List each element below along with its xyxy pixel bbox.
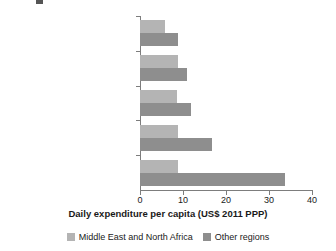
y-axis-tick	[136, 86, 140, 87]
x-axis-tick-label: 30	[264, 195, 274, 206]
y-axis-tick	[136, 51, 140, 52]
chart-legend: Middle East and North AfricaOther region…	[0, 232, 336, 242]
bar	[140, 55, 178, 68]
legend-label: Other regions	[215, 232, 270, 242]
bar	[140, 138, 212, 151]
legend-item[interactable]: Middle East and North Africa	[67, 232, 193, 242]
bar	[140, 103, 191, 116]
x-axis-tick-label: 20	[221, 195, 231, 206]
legend-swatch-icon	[203, 233, 211, 241]
legend-label: Middle East and North Africa	[79, 232, 193, 242]
x-axis-tick-label: 0	[137, 195, 142, 206]
legend-item[interactable]: Other regions	[203, 232, 270, 242]
bar	[140, 160, 178, 173]
x-axis-title: Daily expenditure per capita (US$ 2011 P…	[0, 208, 336, 219]
y-axis-tick	[136, 16, 140, 17]
legend-swatch-icon	[67, 233, 75, 241]
bar	[140, 173, 285, 186]
bar	[140, 125, 178, 138]
cropped-chart-title	[36, 0, 43, 4]
y-axis-tick	[136, 120, 140, 121]
x-axis-tick-label: 10	[178, 195, 188, 206]
bar	[140, 90, 177, 103]
bar	[140, 33, 178, 46]
bar-chart: No educationPrimary incompletePrimary co…	[0, 0, 336, 251]
x-axis-tick-label: 40	[307, 195, 317, 206]
bar	[140, 68, 187, 81]
y-axis-tick	[136, 155, 140, 156]
bar	[140, 20, 165, 33]
